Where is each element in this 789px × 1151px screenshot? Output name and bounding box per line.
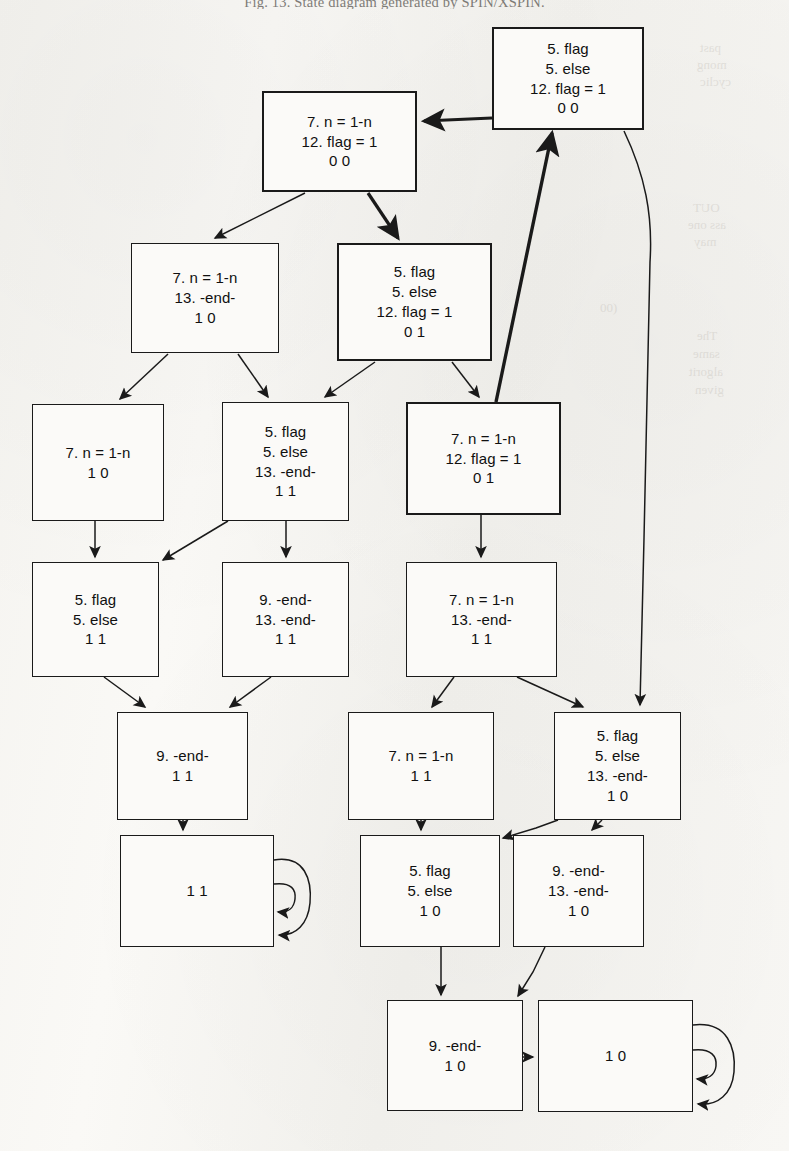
state-node-line: 0 0 [557,98,578,118]
state-node-line: 5. flag [394,262,436,282]
edge-n13-self-outer [274,859,310,935]
edge-n2-n4 [120,354,168,399]
diagram-page: Fig. 13. State diagram generated by SPIN… [0,0,789,1151]
state-node-line: 1 1 [172,766,193,786]
state-node-line: 7. n = 1-n [449,590,514,610]
state-node-line: 13. -end- [587,766,648,786]
edge-n1-n3 [368,193,398,238]
edge-n13-self-inner [274,884,295,912]
edge-n3-n5 [325,362,375,397]
edge-n0-n1 [424,118,492,121]
state-node-line: 1 1 [275,629,296,649]
state-node-line: 1 1 [275,481,296,501]
state-node-line: 12. flag = 1 [530,79,606,99]
edge-n7-n10 [104,677,145,707]
edge-n15-n16 [518,947,545,996]
accept-node-10[interactable]: 1 0 [538,1000,693,1112]
state-node-line: 9. -end- [552,861,605,881]
state-node-5flag-5else-12flag1-01[interactable]: 5. flag5. else12. flag = 10 1 [337,243,492,361]
edge-n3-n6 [452,362,479,397]
state-node-line: 5. flag [547,39,589,59]
state-node-line: 0 1 [404,322,425,342]
state-node-line: 1 0 [605,1046,626,1066]
state-node-line: 13. -end- [451,610,512,630]
state-node-line: 12. flag = 1 [377,302,453,322]
state-node-line: 1 1 [186,881,207,901]
state-node-line: 5. else [263,442,308,462]
state-node-line: 13. -end- [255,462,316,482]
state-node-line: 13. -end- [255,610,316,630]
state-node-line: 5. else [392,282,437,302]
state-node-line: 5. else [408,881,453,901]
state-node-line: 5. flag [409,861,451,881]
state-node-line: 7. n = 1-n [389,746,454,766]
state-node-line: 1 0 [419,901,440,921]
state-node-line: 13. -end- [548,881,609,901]
edge-n2-n5 [238,354,268,397]
state-node-line: 5. else [595,746,640,766]
state-node-line: 5. else [73,610,118,630]
edge-n9-n11 [432,677,454,707]
state-node-line: 12. flag = 1 [446,449,522,469]
state-node-line: 5. flag [597,726,639,746]
accept-node-11[interactable]: 1 1 [120,835,274,947]
state-node-5flag-5else-13end-11[interactable]: 5. flag5. else13. -end-1 1 [222,402,349,521]
state-node-9end-13end-10[interactable]: 9. -end-13. -end-1 0 [513,835,644,947]
state-node-line: 5. flag [265,422,307,442]
state-node-line: 1 0 [607,786,628,806]
state-node-line: 1 1 [471,629,492,649]
state-node-line: 7. n = 1-n [66,443,131,463]
edge-n6-n0 [496,133,552,402]
state-node-line: 1 0 [194,308,215,328]
state-node-line: 0 0 [329,151,350,171]
state-node-line: 9. -end- [429,1036,482,1056]
edge-n5-n7 [163,521,228,560]
state-node-9end-11[interactable]: 9. -end-1 1 [117,712,248,820]
state-node-line: 7. n = 1-n [307,112,372,132]
state-node-line: 1 0 [444,1056,465,1076]
state-node-7n1n-12flag1-01[interactable]: 7. n = 1-n12. flag = 10 1 [406,402,561,515]
state-node-line: 1 1 [85,629,106,649]
edge-n12-n15 [592,820,602,830]
edge-n17-self-outer [693,1025,734,1105]
state-node-7n1n-12flag1-00[interactable]: 7. n = 1-n12. flag = 10 0 [262,91,417,192]
edge-n17-self-inner [693,1050,716,1079]
state-node-7n1n-13end-10[interactable]: 7. n = 1-n13. -end-1 0 [131,243,279,353]
state-node-line: 0 1 [473,468,494,488]
edge-n1-n2 [215,193,305,238]
state-node-5flag-5else-13end-10[interactable]: 5. flag5. else13. -end-1 0 [554,712,681,820]
state-node-line: 9. -end- [156,746,209,766]
state-node-5flag-5else-10[interactable]: 5. flag5. else1 0 [360,835,500,947]
state-node-line: 5. else [546,59,591,79]
state-node-line: 5. flag [75,590,117,610]
state-node-line: 7. n = 1-n [451,429,516,449]
state-node-5flag-5else-11[interactable]: 5. flag5. else1 1 [32,562,159,677]
state-node-line: 7. n = 1-n [173,268,238,288]
state-node-line: 9. -end- [259,590,312,610]
state-node-line: 13. -end- [175,288,236,308]
state-node-7n1n-13end-11[interactable]: 7. n = 1-n13. -end-1 1 [406,562,557,677]
state-node-7n1n-10[interactable]: 7. n = 1-n1 0 [32,404,164,521]
state-node-line: 1 1 [410,766,431,786]
state-node-7n1n-11[interactable]: 7. n = 1-n1 1 [348,712,494,820]
edge-n0-n12 [624,131,651,705]
state-node-9end-13end-11[interactable]: 9. -end-13. -end-1 1 [222,562,349,677]
edge-n9-n12 [517,677,583,707]
edge-n8-n10 [230,677,271,707]
state-node-9end-10[interactable]: 9. -end-1 0 [387,1000,523,1111]
state-node-line: 1 0 [87,463,108,483]
state-node-line: 12. flag = 1 [302,132,378,152]
state-node-5flag-5else-12flag1-00[interactable]: 5. flag5. else12. flag = 10 0 [492,27,644,130]
state-node-line: 1 0 [568,901,589,921]
